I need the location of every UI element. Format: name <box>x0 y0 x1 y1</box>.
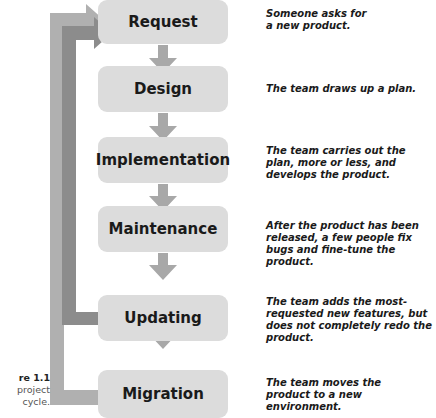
step-implementation: Implementation <box>98 137 228 183</box>
description-maintenance: After the product has been released, a f… <box>266 220 426 268</box>
step-label: Migration <box>122 385 204 403</box>
step-label: Implementation <box>96 151 230 169</box>
step-label: Updating <box>124 309 202 327</box>
description-migration: The team moves the product to a new envi… <box>266 377 396 413</box>
step-updating: Updating <box>98 295 228 341</box>
step-label: Request <box>128 13 197 31</box>
step-label: Design <box>134 80 192 98</box>
description-updating: The team adds the most-requested new fea… <box>266 296 434 344</box>
caption-line-1: project <box>0 384 50 396</box>
step-request: Request <box>98 0 228 44</box>
description-implementation: The team carries out the plan, more or l… <box>266 145 426 181</box>
loop-arrow-updating-to-request <box>62 26 98 325</box>
step-migration: Migration <box>98 370 228 418</box>
step-label: Maintenance <box>109 220 218 238</box>
description-design: The team draws up a plan. <box>266 83 436 95</box>
description-request: Someone asks for a new product. <box>266 8 376 32</box>
figure-number: re 1.1 <box>0 372 50 384</box>
step-maintenance: Maintenance <box>98 206 228 252</box>
step-design: Design <box>98 66 228 112</box>
down-arrow-4 <box>149 253 177 280</box>
caption-line-2: cycle. <box>0 396 50 408</box>
figure-caption: re 1.1 project cycle. <box>0 372 50 408</box>
